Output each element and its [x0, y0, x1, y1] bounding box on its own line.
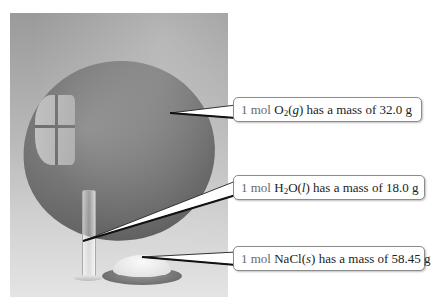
- photo-one-mole-samples: [10, 13, 228, 297]
- callout-text: has a mass of 58.45 g: [319, 251, 431, 267]
- callout-quantity: 1 mol: [241, 102, 271, 118]
- callout-quantity: 1 mol: [241, 180, 271, 196]
- callout-text: has a mass of 32.0 g: [307, 102, 412, 118]
- watch-glass-dish: [102, 267, 182, 285]
- balloon-knot: [206, 253, 214, 259]
- formula: H2O(l): [274, 180, 310, 196]
- callout-text: has a mass of 18.0 g: [313, 180, 418, 196]
- formula: O2(g): [274, 102, 303, 118]
- callout-h2o: 1 mol H2O(l) has a mass of 18.0 g: [233, 175, 425, 200]
- window-reflection: [35, 95, 75, 165]
- callout-o2: 1 mol O2(g) has a mass of 32.0 g: [233, 97, 422, 122]
- sodium-chloride-pile: [113, 255, 171, 277]
- formula: NaCl(s): [274, 251, 315, 267]
- callout-nacl: 1 mol NaCl(s) has a mass of 58.45 g: [233, 246, 425, 271]
- callout-quantity: 1 mol: [241, 251, 271, 267]
- cylinder-base: [74, 275, 102, 281]
- graduated-cylinder-water: [82, 190, 96, 277]
- balloon-oxygen-gas: [11, 49, 226, 254]
